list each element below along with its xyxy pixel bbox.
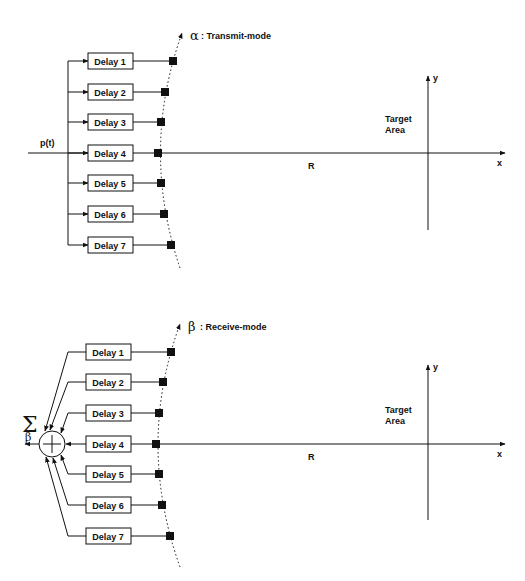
delay-row-5: Delay 5 — [68, 175, 165, 191]
delay-label: Delay 7 — [92, 532, 124, 542]
delay-row-1: Delay 1 — [68, 53, 177, 69]
delay-row-4: Delay 4 — [68, 145, 162, 161]
delay-label: Delay 3 — [94, 118, 126, 128]
delay-label: Delay 2 — [92, 378, 124, 388]
target-label: Target — [385, 114, 412, 124]
rx-delay-row-5: Delay 5 — [61, 455, 163, 482]
target-label: Area — [385, 416, 406, 426]
mode-label: : Receive-mode — [200, 322, 267, 332]
delay-label: Delay 2 — [94, 88, 126, 98]
mode-symbol: α — [190, 28, 199, 43]
mode-label: : Transmit-mode — [201, 31, 271, 41]
transmit-panel: p(t) Delay 1 Delay 2 Delay 3 — [28, 28, 505, 268]
beamforming-diagram: p(t) Delay 1 Delay 2 Delay 3 — [0, 0, 525, 581]
transducer-element — [155, 409, 163, 417]
transducer-element — [152, 440, 160, 448]
receive-panel: Σ β Delay 1 Delay 2 Delay 3 Delay — [22, 319, 505, 567]
transducer-element — [157, 179, 165, 187]
delay-label: Delay 4 — [92, 440, 124, 450]
delay-label: Delay 6 — [92, 501, 124, 511]
range-label: R — [308, 452, 315, 462]
target-label: Area — [385, 125, 406, 135]
transducer-element — [157, 118, 165, 126]
delay-label: Delay 1 — [94, 57, 126, 67]
delay-label: Delay 6 — [94, 210, 126, 220]
mode-symbol: β — [188, 319, 196, 334]
transducer-element — [155, 470, 163, 478]
y-axis-label: y — [433, 362, 438, 372]
transducer-element — [167, 348, 175, 356]
delay-row-7: Delay 7 — [68, 237, 175, 253]
output-symbol: β — [25, 431, 31, 444]
input-label: p(t) — [40, 138, 55, 148]
transducer-element — [161, 88, 169, 96]
range-label: R — [308, 161, 315, 171]
delay-label: Delay 5 — [94, 179, 126, 189]
wavefront-arc — [160, 33, 182, 268]
transducer-element — [158, 501, 166, 509]
x-axis-label: x — [497, 158, 502, 168]
rx-delay-row-3: Delay 3 — [61, 405, 163, 433]
wavefront-arc — [158, 324, 180, 567]
rx-delay-row-2: Delay 2 — [50, 374, 167, 430]
x-axis-label: x — [497, 449, 502, 459]
delay-label: Delay 3 — [92, 409, 124, 419]
delay-label: Delay 1 — [92, 348, 124, 358]
delay-row-6: Delay 6 — [68, 206, 168, 222]
rx-delay-row-4: Delay 4 — [66, 436, 160, 452]
target-label: Target — [385, 405, 412, 415]
delay-label: Delay 5 — [92, 470, 124, 480]
delay-label: Delay 4 — [94, 149, 126, 159]
transducer-element — [169, 57, 177, 65]
y-axis-label: y — [433, 73, 438, 83]
delay-row-2: Delay 2 — [68, 84, 169, 100]
delay-row-3: Delay 3 — [68, 114, 165, 130]
delay-label: Delay 7 — [94, 241, 126, 251]
